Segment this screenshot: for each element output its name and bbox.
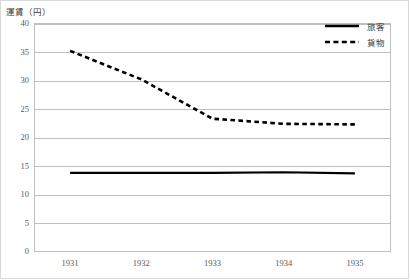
y-axis-tick-label: 15 xyxy=(5,162,29,171)
series-group xyxy=(70,51,355,174)
chart-container: 運賃（円） 0510152025303540 19311932193319341… xyxy=(0,0,409,279)
y-axis-tick-label: 25 xyxy=(5,105,29,114)
y-axis-tick-label: 30 xyxy=(5,76,29,85)
y-axis-tick-label: 5 xyxy=(5,219,29,228)
x-axis-tick-label: 1934 xyxy=(254,259,314,268)
series-line xyxy=(70,51,355,125)
legend-key-dashed-icon xyxy=(323,35,361,49)
legend-item-passenger: 旅客 xyxy=(269,19,395,33)
legend-label-passenger: 旅客 xyxy=(367,20,385,32)
legend-key-solid-icon xyxy=(323,19,361,33)
x-axis-tick-label: 1935 xyxy=(325,259,385,268)
x-axis-tick-label: 1933 xyxy=(183,259,243,268)
legend-label-freight: 貨物 xyxy=(367,36,385,48)
y-axis-tick-label: 0 xyxy=(5,247,29,256)
legend-item-freight: 貨物 xyxy=(269,35,395,49)
y-axis-tick-label: 40 xyxy=(5,19,29,28)
x-axis-tick-label: 1931 xyxy=(40,259,100,268)
series-line xyxy=(70,172,355,173)
y-axis-tick-label: 20 xyxy=(5,133,29,142)
x-axis-tick-label: 1932 xyxy=(111,259,171,268)
y-axis-tick-label: 10 xyxy=(5,190,29,199)
chart-legend: 旅客 貨物 xyxy=(269,19,395,53)
y-axis-tick-label: 35 xyxy=(5,48,29,57)
